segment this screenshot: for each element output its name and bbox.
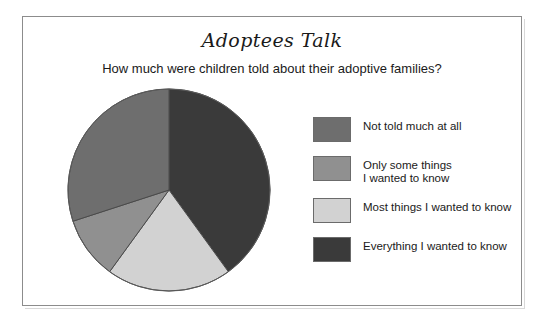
- figure-frame: Adoptees Talk How much were children tol…: [22, 16, 522, 306]
- chart-subtitle: How much were children told about their …: [23, 61, 521, 76]
- pie-chart: [66, 87, 272, 293]
- legend-item[interactable]: Everything I wanted to know: [313, 237, 518, 263]
- legend-swatch-icon: [313, 156, 351, 181]
- legend-swatch-icon: [313, 117, 351, 142]
- pie-slice-group: [68, 89, 270, 291]
- page-title: Adoptees Talk: [23, 29, 521, 51]
- legend-item[interactable]: Only some things I wanted to know: [313, 156, 518, 185]
- legend-item-label: Everything I wanted to know: [363, 237, 507, 253]
- legend: Not told much at all Only some things I …: [313, 117, 518, 276]
- legend-item[interactable]: Most things I wanted to know: [313, 198, 518, 224]
- legend-swatch-icon: [313, 198, 351, 223]
- legend-item-label: Only some things I wanted to know: [363, 156, 452, 185]
- legend-item[interactable]: Not told much at all: [313, 117, 518, 143]
- legend-item-label: Most things I wanted to know: [363, 198, 511, 214]
- legend-item-label: Not told much at all: [363, 117, 461, 133]
- legend-swatch-icon: [313, 237, 351, 262]
- pie-chart-svg: [66, 87, 272, 293]
